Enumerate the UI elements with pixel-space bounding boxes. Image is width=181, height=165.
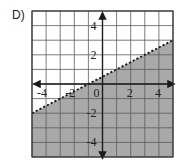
coordinate-graph: -4-202442-2-4 <box>0 0 181 165</box>
y-tick-label: 4 <box>91 19 97 33</box>
x-tick-label: 0 <box>94 86 100 100</box>
x-tick-label: 2 <box>127 86 133 100</box>
y-tick-label: -2 <box>87 106 97 120</box>
x-tick-label: -4 <box>37 86 47 100</box>
x-tick-label: -2 <box>65 86 75 100</box>
y-tick-label: 2 <box>91 48 97 62</box>
y-tick-label: -4 <box>87 135 97 149</box>
x-tick-label: 4 <box>155 86 161 100</box>
